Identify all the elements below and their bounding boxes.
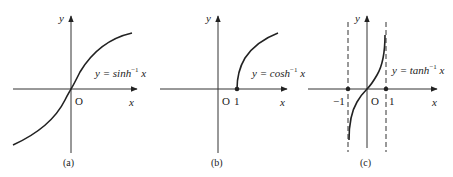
x-axis-label: x xyxy=(432,97,437,108)
y-axis-label: y xyxy=(355,13,360,24)
cosh-inverse-curve xyxy=(237,33,278,89)
tick-label-1: 1 xyxy=(389,96,395,107)
panel-b-graph xyxy=(160,16,287,153)
panel-a-graph xyxy=(13,16,137,153)
origin-label: O xyxy=(75,96,83,107)
equation-label: y = sinh−1 x xyxy=(95,67,146,79)
equation-label: y = tanh−1 x xyxy=(392,64,444,76)
point-1-0 xyxy=(384,87,389,92)
diagram-canvas xyxy=(0,0,453,177)
origin-label: O xyxy=(222,96,230,107)
y-axis-label: y xyxy=(59,13,64,24)
point-1-0 xyxy=(235,87,240,92)
x-axis-label: x xyxy=(280,97,285,108)
panel-c-graph xyxy=(308,16,437,152)
tick-label-1: 1 xyxy=(234,96,240,107)
point-neg1-0 xyxy=(346,87,351,92)
tick-label-neg1: −1 xyxy=(333,96,345,107)
y-axis-label: y xyxy=(206,13,211,24)
origin-label: O xyxy=(371,96,379,107)
panel-caption: (b) xyxy=(211,157,223,168)
equation-label: y = cosh−1 x xyxy=(252,67,305,79)
x-axis-label: x xyxy=(129,97,134,108)
panel-caption: (a) xyxy=(63,157,74,168)
panel-caption: (c) xyxy=(360,157,371,168)
